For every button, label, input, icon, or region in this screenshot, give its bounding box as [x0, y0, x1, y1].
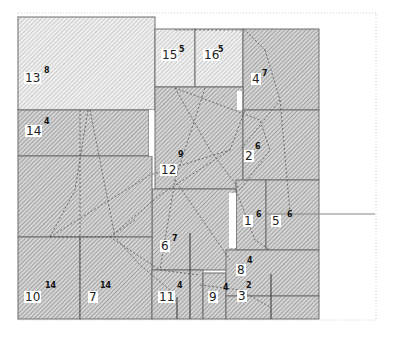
- block-label: 2: [244, 150, 254, 162]
- block-weight: 4: [44, 118, 50, 126]
- block-label: 3: [237, 290, 247, 302]
- block-label: 6: [160, 240, 170, 252]
- floorplan-diagram: [0, 0, 393, 337]
- block-label: 1: [243, 215, 253, 227]
- block-weight: 7: [262, 70, 268, 78]
- block-label: 13: [24, 72, 41, 84]
- block-label: 12: [160, 164, 177, 176]
- block-weight: 4: [177, 282, 183, 290]
- block-4: [243, 29, 319, 110]
- block-13: [18, 17, 155, 110]
- block-6: [152, 189, 236, 270]
- block-weight: 7: [172, 235, 178, 243]
- gap-strip: [229, 193, 236, 248]
- block-weight: 5: [179, 46, 185, 54]
- block-label: 7: [88, 291, 98, 303]
- gap-strip: [149, 110, 154, 156]
- gap-strip: [237, 91, 242, 110]
- block-big-left: [18, 156, 152, 237]
- block-10: [18, 237, 80, 319]
- block-weight: 14: [100, 282, 111, 290]
- block-label: 4: [251, 73, 261, 85]
- block-weight: 4: [247, 257, 253, 265]
- block-weight: 6: [256, 211, 262, 219]
- block-7: [80, 237, 152, 319]
- block-label: 15: [161, 49, 178, 61]
- block-weight: 6: [255, 143, 261, 151]
- block-label: 9: [208, 291, 218, 303]
- block-weight: 2: [246, 282, 252, 290]
- block-label: 5: [271, 215, 281, 227]
- block-weight: 5: [218, 46, 224, 54]
- block-weight: 14: [45, 282, 56, 290]
- block-weight: 8: [44, 67, 50, 75]
- block-label: 8: [236, 264, 246, 276]
- block-weight: 4: [223, 284, 229, 292]
- block-weight: 9: [178, 151, 184, 159]
- block-label: 14: [25, 125, 42, 137]
- block-label: 10: [24, 291, 41, 303]
- block-label: 11: [158, 291, 175, 303]
- block-weight: 6: [287, 211, 293, 219]
